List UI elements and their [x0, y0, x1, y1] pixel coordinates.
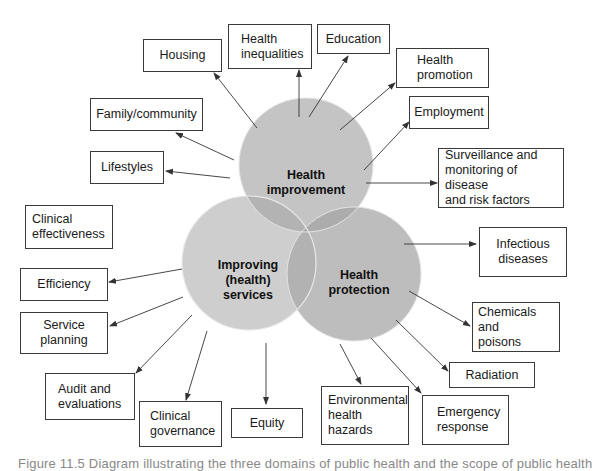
arrow-to-lifestyles: [166, 171, 230, 178]
box-surveillance: Surveillance and monitoring of disease a…: [438, 148, 564, 208]
arrow-to-housing: [214, 73, 257, 128]
box-lifestyles: Lifestyles: [90, 151, 164, 184]
arrow-to-emergency-response: [371, 338, 421, 393]
arrow-to-environmental-hazards: [340, 344, 361, 384]
arrow-to-radiation: [396, 320, 448, 371]
box-clinical-effectiveness: Clinical effectiveness: [25, 205, 113, 249]
box-clinical-governance: Clinical governance: [139, 401, 222, 447]
arrow-to-health-promotion: [340, 83, 395, 130]
box-chemicals-poisons: Chemicals and poisons: [472, 302, 560, 352]
box-audit-evaluations: Audit and evaluations: [45, 373, 135, 420]
arrow-to-family-community: [176, 133, 234, 160]
box-housing: Housing: [143, 39, 222, 72]
box-radiation: Radiation: [449, 362, 535, 388]
arrow-to-efficiency: [109, 269, 182, 282]
box-education: Education: [317, 24, 390, 54]
box-efficiency: Efficiency: [20, 268, 108, 301]
box-family-community: Family/community: [90, 98, 203, 131]
label-health-improvement: Health improvement: [250, 168, 362, 198]
box-equity: Equity: [231, 408, 303, 438]
label-health-protection: Health protection: [314, 268, 404, 298]
label-improving-services: Improving (health) services: [200, 258, 296, 303]
box-health-inequalities: Health inequalities: [228, 24, 312, 69]
box-emergency-response: Emergency response: [422, 395, 509, 445]
box-infectious-diseases: Infectious diseases: [479, 227, 567, 277]
box-health-promotion: Health promotion: [396, 48, 489, 88]
box-employment: Employment: [409, 96, 489, 129]
box-service-planning: Service planning: [20, 312, 108, 354]
arrow-to-audit-evaluations: [136, 315, 192, 373]
arrow-to-chemicals-poisons: [409, 291, 470, 326]
figure-caption: Figure 11.5 Diagram illustrating the thr…: [18, 456, 592, 471]
arrow-to-clinical-governance: [186, 331, 207, 400]
box-environmental-hazards: Environmental health hazards: [321, 386, 409, 445]
arrow-to-service-planning: [110, 297, 183, 326]
